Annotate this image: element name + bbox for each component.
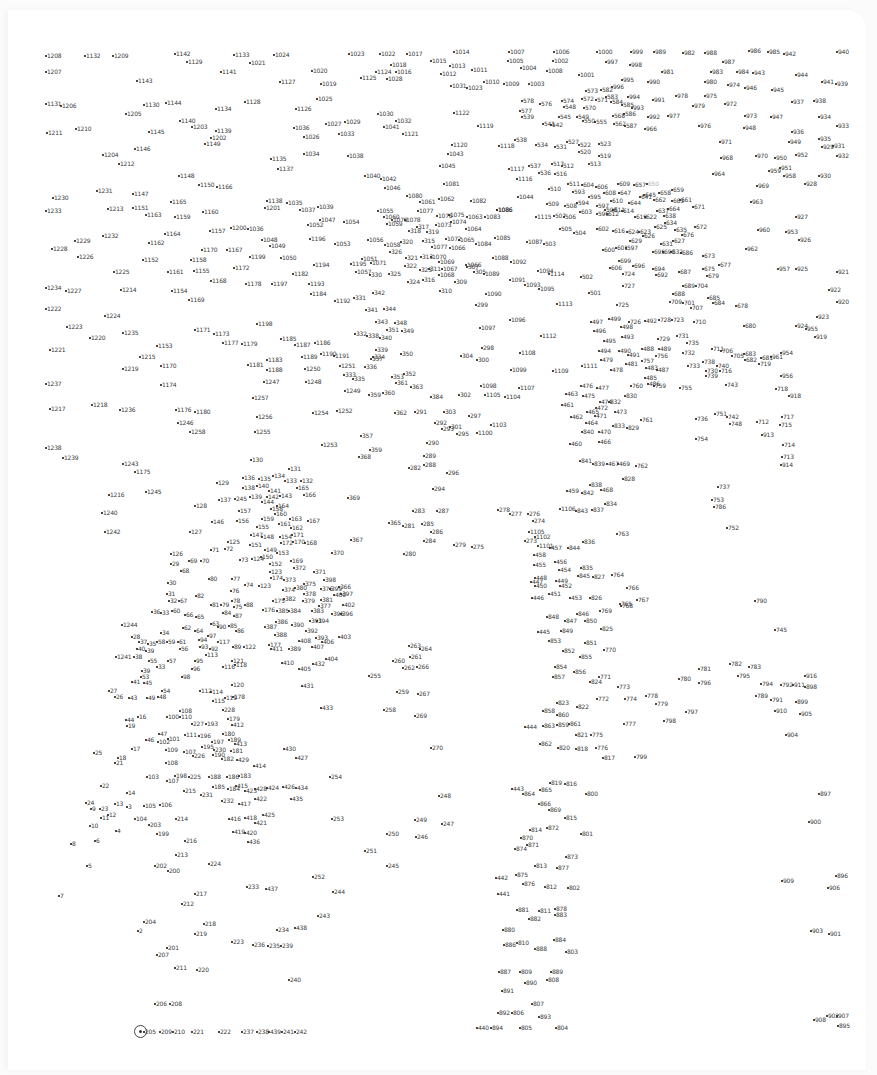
dot-label: 1164 <box>166 230 180 237</box>
dot-label: 266 <box>418 663 429 670</box>
dot-label: 407 <box>313 643 324 650</box>
dot-label: 452 <box>561 582 572 589</box>
dot-label: 5 <box>88 862 92 869</box>
dot-label: 742 <box>728 413 739 420</box>
dot-label: 957 <box>779 265 790 272</box>
dot-label: 412 <box>233 721 244 728</box>
dot-label: 1038 <box>349 152 363 159</box>
dot-label: 1213 <box>109 205 123 212</box>
dot-label: 932 <box>838 152 849 159</box>
dot-label: 466 <box>600 438 611 445</box>
dot-label: 941 <box>823 78 834 85</box>
dot-label: 1148 <box>180 172 194 179</box>
dot-label: 597 <box>627 244 638 251</box>
dot-label: 874 <box>516 845 527 852</box>
dot-label: 1037 <box>301 206 315 213</box>
dot-label: 47 <box>160 730 167 737</box>
dot-label: 1019 <box>322 80 336 87</box>
dot-label: 1149 <box>206 140 220 147</box>
dot-label: 366 <box>340 583 351 590</box>
dot-label: 294 <box>434 485 445 492</box>
dot-label: 390 <box>293 621 304 628</box>
dot-label: 1142 <box>176 50 190 57</box>
dot-label: 417 <box>240 800 251 807</box>
dot-label: 276 <box>529 510 540 517</box>
dot-label: 94 <box>200 636 207 643</box>
dot-label: 303 <box>445 408 456 415</box>
dot-label: 1023 <box>350 50 364 57</box>
dot-label: 1005 <box>509 57 523 64</box>
dot-label: 692 <box>657 271 668 278</box>
dot-label: 67 <box>180 597 187 604</box>
dot-label: 403 <box>340 633 351 640</box>
start-circle-icon <box>134 1025 147 1038</box>
dot-label: 950 <box>776 154 787 161</box>
dot-label: 319 <box>428 228 439 235</box>
dot-label: 367 <box>352 536 363 543</box>
dot-label: 3 <box>128 803 132 810</box>
dot-label: 888 <box>536 945 547 952</box>
dot-label: 1181 <box>249 361 263 368</box>
dot-label: 351 <box>388 326 399 333</box>
dot-label: 368 <box>360 453 371 460</box>
dot-label: 365 <box>390 519 401 526</box>
dot-label: 372 <box>295 564 306 571</box>
dot-label: 1203 <box>193 123 207 130</box>
dot-label: 1135 <box>272 155 286 162</box>
dot-label: 304 <box>462 352 473 359</box>
dot-label: 282 <box>410 464 421 471</box>
dot-label: 884 <box>555 936 566 943</box>
dot-label: 245 <box>388 862 399 869</box>
dot-label: 22 <box>102 782 109 789</box>
dot-label: 463 <box>567 390 578 397</box>
dot-label: 658 <box>660 189 671 196</box>
dot-label: 973 <box>746 112 757 119</box>
dot-label: 1020 <box>313 67 327 74</box>
dot-label: 1121 <box>404 130 418 137</box>
dot-label: 422 <box>256 795 267 802</box>
dot-label: 1001 <box>580 71 594 78</box>
dot-label: 1153 <box>158 342 172 349</box>
dot-label: 62 <box>184 624 191 631</box>
dot-label: 117 <box>219 638 230 645</box>
dot-label: 1042 <box>382 175 396 182</box>
dot-label: 1231 <box>98 187 112 194</box>
dot-label: 877 <box>558 864 569 871</box>
dot-label: 678 <box>737 302 748 309</box>
dot-label: 1170 <box>162 362 176 369</box>
dot-label: 1152 <box>144 256 158 263</box>
dot-label: 800 <box>587 790 598 797</box>
dot-label: 672 <box>696 223 707 230</box>
dot-label: 348 <box>396 319 407 326</box>
dot-label: 280 <box>405 550 416 557</box>
dot-label: 975 <box>706 92 717 99</box>
dot-label: 344 <box>385 305 396 312</box>
dot-label: 606 <box>611 264 622 271</box>
dot-label: 829 <box>628 424 639 431</box>
dot-label: 732 <box>684 349 695 356</box>
dot-label: 1077 <box>419 207 433 214</box>
dot-label: 944 <box>797 71 808 78</box>
dot-label: 135 <box>260 475 271 482</box>
dot-label: 81 <box>212 601 219 608</box>
dot-label: 475 <box>584 392 595 399</box>
dot-label: 259 <box>398 688 409 695</box>
dot-label: 1239 <box>64 454 78 461</box>
dot-label: 79 <box>222 601 229 608</box>
dot-label: 269 <box>416 712 427 719</box>
dot-label: 1170 <box>203 246 217 253</box>
dot-label: 111 <box>186 731 197 738</box>
dot-label: 854 <box>556 663 567 670</box>
dot-label: 188 <box>210 773 221 780</box>
dot-label: 855 <box>581 653 592 660</box>
dot-label: 857 <box>554 673 565 680</box>
dot-label: 90 <box>219 623 226 630</box>
dot-label: 1105 <box>486 391 500 398</box>
dot-label: 23 <box>101 805 108 812</box>
dot-label: 955 <box>807 325 818 332</box>
dot-label: 810 <box>518 939 529 946</box>
dot-label: 894 <box>492 1024 503 1031</box>
dot-label: 936 <box>793 128 804 135</box>
dot-label: 222 <box>220 1028 231 1035</box>
dot-label: 432 <box>314 660 325 667</box>
